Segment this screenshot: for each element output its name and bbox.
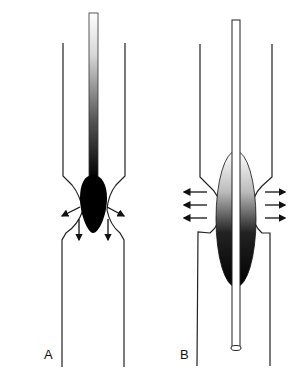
panel-a <box>62 13 125 367</box>
arrow-a-left-diag <box>62 207 80 216</box>
panel-label-b: B <box>180 347 189 362</box>
vessel-wall-right-a <box>107 43 125 367</box>
catheter-shaft <box>232 20 240 348</box>
probe-tip <box>80 175 107 233</box>
panel-b <box>184 20 285 366</box>
catheter-tip <box>231 346 241 351</box>
arrow-a-right-diag <box>107 207 124 216</box>
panel-label-a: A <box>44 347 53 362</box>
diagram-canvas <box>0 0 288 371</box>
vessel-wall-left-a <box>62 43 83 367</box>
probe-rod <box>89 13 98 178</box>
